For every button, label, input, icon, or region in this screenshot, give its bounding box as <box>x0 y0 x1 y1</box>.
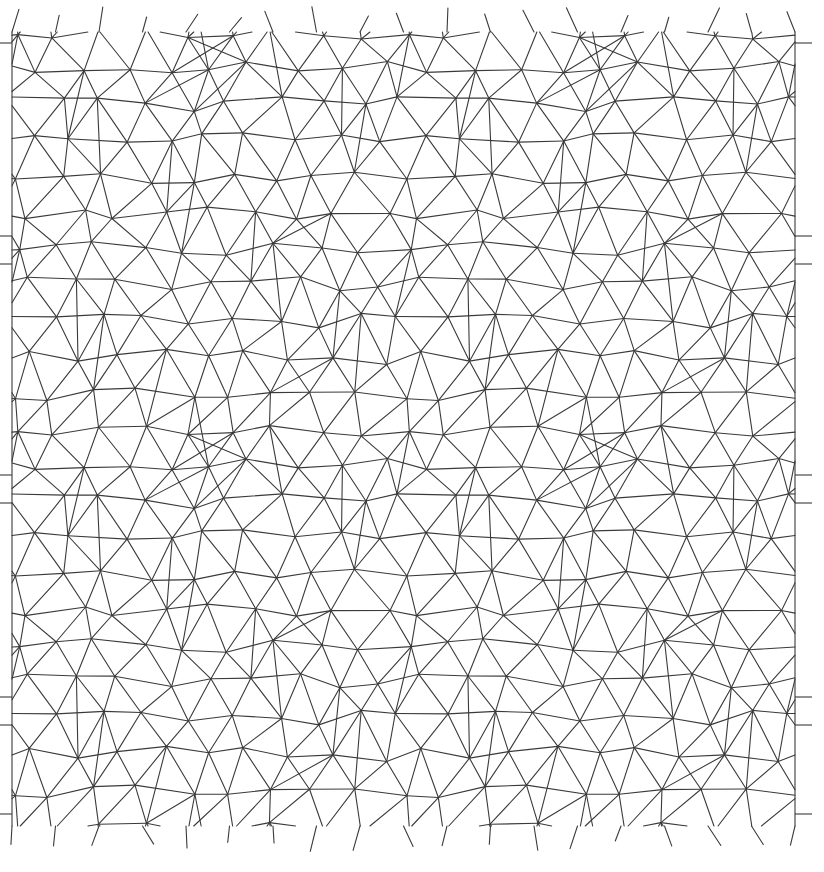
mesh-edge <box>543 183 586 184</box>
mesh-edge <box>602 281 642 282</box>
mesh-edge <box>602 678 642 679</box>
mesh-edge <box>543 580 586 581</box>
mesh-svg <box>0 0 824 872</box>
mesh-edge <box>211 678 251 679</box>
figure-canvas <box>0 0 824 872</box>
mesh-edge <box>152 580 195 581</box>
mesh-edge <box>211 281 251 282</box>
mesh-edge <box>661 823 662 826</box>
mesh-edge <box>152 183 195 184</box>
mesh-edge <box>269 823 270 826</box>
